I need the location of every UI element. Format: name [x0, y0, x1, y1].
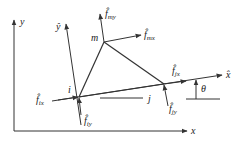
global-x-label: x — [190, 125, 196, 136]
node-i-label: i — [68, 84, 71, 95]
svg-text:f̂mx: f̂mx — [144, 28, 156, 42]
force-f-mx: f̂mx — [104, 28, 156, 42]
svg-text:f̂jy: f̂jy — [169, 102, 178, 116]
local-y-label: ŷ — [55, 21, 61, 32]
global-axes: y x — [14, 16, 196, 136]
local-y-axis — [66, 24, 81, 125]
global-y-label: y — [19, 16, 25, 27]
element-force-diagram: y x x̂ ŷ i j m θ f̂my f̂mx f̂ix f̂iy — [0, 0, 245, 148]
force-f-my: f̂my — [100, 7, 117, 42]
svg-text:f̂jx: f̂jx — [172, 64, 181, 78]
theta-label: θ — [201, 83, 206, 94]
svg-text:f̂iy: f̂iy — [84, 114, 93, 128]
force-f-jx: f̂jx — [164, 64, 186, 84]
node-j-label: j — [146, 93, 151, 104]
svg-text:f̂my: f̂my — [105, 7, 117, 21]
local-axes: x̂ ŷ — [52, 21, 231, 125]
force-f-jy: f̂jy — [164, 85, 178, 116]
svg-text:f̂ix: f̂ix — [36, 93, 45, 107]
local-x-label: x̂ — [225, 69, 231, 80]
triangle-element — [79, 42, 164, 97]
node-m-label: m — [91, 32, 98, 43]
